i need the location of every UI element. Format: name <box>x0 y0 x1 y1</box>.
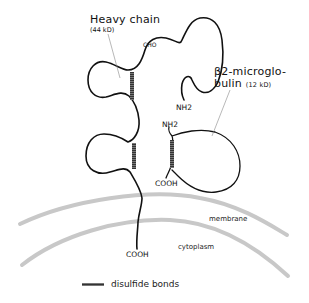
heavy-chain-pointer <box>108 34 120 78</box>
heavy-chain-c-terminus: COOH <box>126 251 149 259</box>
membrane-bilayer <box>20 194 288 276</box>
disulfide-bond-upper <box>130 72 134 100</box>
beta2-n-terminus: NH2 <box>162 121 178 129</box>
diagram-canvas: Heavy chain (44 kD) CHO NH2 COOH β2-micr… <box>0 0 309 303</box>
heavy-chain <box>86 18 223 249</box>
beta2-pointer <box>212 90 230 136</box>
membrane-inner-arc <box>22 220 288 276</box>
legend-disulfide-label: disulfide bonds <box>111 280 179 289</box>
beta2-label-line2: bulin (12 kD) <box>214 78 271 89</box>
beta2-label-line1: β2-microglo- <box>214 66 286 77</box>
disulfide-bond-beta2 <box>170 140 174 168</box>
membrane-label: membrane <box>209 216 247 223</box>
heavy-chain-label: Heavy chain <box>90 14 160 25</box>
heavy-chain-strand <box>86 18 223 249</box>
disulfide-bond-lower <box>132 143 136 169</box>
carbohydrate-label: CHO <box>143 42 156 48</box>
beta2-label-line2-text: bulin <box>214 77 242 90</box>
legend-disulfide-swatch <box>82 283 104 286</box>
beta2-c-terminus: COOH <box>155 180 178 188</box>
heavy-chain-n-terminus: NH2 <box>176 104 192 112</box>
heavy-chain-weight: (44 kD) <box>90 27 114 34</box>
cytoplasm-label: cytoplasm <box>178 244 214 251</box>
beta2-weight: (12 kD) <box>246 81 272 89</box>
